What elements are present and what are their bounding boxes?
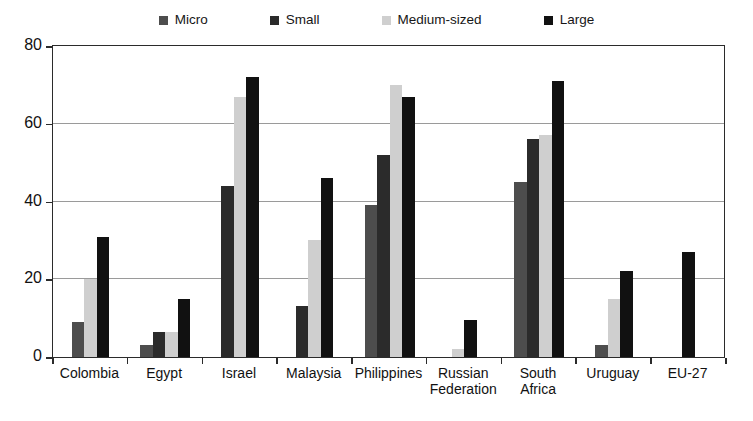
legend-entry-micro[interactable]: Micro xyxy=(159,13,208,27)
bar xyxy=(390,85,403,357)
x-axis-tick-mark xyxy=(426,358,428,364)
x-axis-tick-label: South Africa xyxy=(501,366,576,397)
bar xyxy=(552,81,565,357)
bar-chart: MicroSmallMedium-sizedLarge 020406080 Co… xyxy=(0,0,753,421)
x-axis-tick-label: Philippines xyxy=(351,366,426,382)
bar xyxy=(97,237,110,358)
bar xyxy=(539,135,552,357)
y-axis-tick-label: 20 xyxy=(2,269,42,287)
bar-series-layer xyxy=(53,46,724,357)
bar xyxy=(178,299,191,357)
bar xyxy=(452,349,465,357)
x-axis-tick-mark xyxy=(650,358,652,364)
bar xyxy=(682,252,695,357)
x-axis-tick-mark xyxy=(127,358,129,364)
x-axis-tick-label: Israel xyxy=(202,366,277,382)
bar xyxy=(296,306,309,357)
x-axis-tick-mark xyxy=(501,358,503,364)
x-axis-tick-mark xyxy=(52,358,54,364)
legend-entry-small[interactable]: Small xyxy=(270,13,320,27)
legend-label: Large xyxy=(560,13,595,27)
x-axis-tick-label: EU-27 xyxy=(650,366,725,382)
legend-swatch-icon xyxy=(544,16,553,25)
x-axis-tick-mark xyxy=(575,358,577,364)
bar xyxy=(608,299,621,357)
bar xyxy=(153,332,166,357)
x-axis-tick-label: Russian Federation xyxy=(426,366,501,397)
x-axis-tick-label: Egypt xyxy=(127,366,202,382)
bar xyxy=(221,186,234,357)
bar xyxy=(377,155,390,357)
y-axis-tick-label: 40 xyxy=(2,192,42,210)
bar xyxy=(365,205,378,357)
y-axis-tick-label: 60 xyxy=(2,114,42,132)
x-axis-tick-label: Uruguay xyxy=(575,366,650,382)
x-axis-tick-mark xyxy=(202,358,204,364)
bar xyxy=(321,178,334,357)
legend-label: Small xyxy=(286,13,320,27)
plot-area xyxy=(52,45,725,358)
y-axis-tick-label: 0 xyxy=(2,347,42,365)
bar xyxy=(84,279,97,357)
bar xyxy=(402,97,415,357)
bar xyxy=(72,322,85,357)
bar xyxy=(308,240,321,357)
y-axis-tick-label: 80 xyxy=(2,36,42,54)
x-axis-tick-label: Malaysia xyxy=(276,366,351,382)
legend-entry-medium-sized[interactable]: Medium-sized xyxy=(382,13,482,27)
bar xyxy=(246,77,259,357)
legend-label: Medium-sized xyxy=(398,13,482,27)
x-axis-tick-mark xyxy=(351,358,353,364)
legend-swatch-icon xyxy=(382,16,391,25)
chart-legend: MicroSmallMedium-sizedLarge xyxy=(0,9,753,31)
legend-label: Micro xyxy=(175,13,208,27)
bar xyxy=(234,97,247,357)
x-axis-tick-label: Colombia xyxy=(52,366,127,382)
x-axis-tick-mark xyxy=(725,358,727,364)
bar xyxy=(464,320,477,357)
bar xyxy=(140,345,153,357)
x-axis-tick-mark xyxy=(276,358,278,364)
legend-swatch-icon xyxy=(270,16,279,25)
bar xyxy=(620,271,633,357)
bar xyxy=(595,345,608,357)
bar xyxy=(527,139,540,357)
legend-swatch-icon xyxy=(159,16,168,25)
bar xyxy=(514,182,527,357)
legend-entry-large[interactable]: Large xyxy=(544,13,595,27)
bar xyxy=(165,332,178,357)
